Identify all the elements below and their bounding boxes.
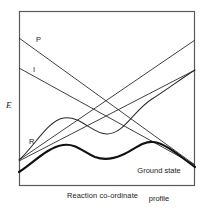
x-axis-label: Reaction co-ordinate bbox=[0, 192, 205, 200]
curve-label-r: R bbox=[29, 138, 34, 146]
energy-reaction-coordinate-figure: P I R Ground state profile E Reaction co… bbox=[0, 0, 205, 211]
ground-state-profile-annotation: Ground state profile bbox=[123, 148, 195, 211]
ground-state-annotation-line-1: Ground state bbox=[123, 166, 195, 175]
curve-label-p: P bbox=[36, 36, 41, 44]
y-axis-label: E bbox=[6, 101, 12, 111]
curve-label-i: I bbox=[33, 66, 35, 74]
